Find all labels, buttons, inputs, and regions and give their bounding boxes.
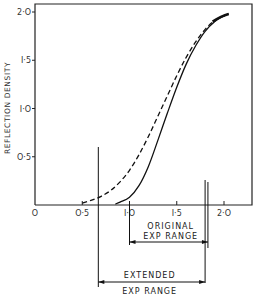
plot-border	[35, 4, 252, 205]
extended-label-1: EXTENDED	[124, 271, 176, 280]
original-label-1: ORIGINAL	[147, 222, 194, 231]
x-tick-label: O	[32, 209, 38, 218]
y-tick-label: I·O	[20, 105, 31, 114]
range-annotations: ORIGINALEXP RANGEEXTENDEDEXP RANGE	[98, 147, 208, 296]
arrow-head	[199, 280, 205, 284]
x-tick-label: 2·O	[217, 209, 231, 218]
chart: OO·5I·OI·52·OO·5I·OI·52·O ORIGINALEXP RA…	[0, 0, 257, 298]
y-tick-label: I·5	[21, 56, 31, 65]
original-label-2: EXP RANGE	[143, 232, 198, 241]
plot-frame	[35, 4, 252, 205]
x-tick-label: O·5	[75, 209, 89, 218]
curves	[82, 14, 228, 204]
y-tick-label: O·5	[17, 153, 31, 162]
extended-label-2: EXP RANGE	[122, 287, 177, 296]
solid-curve	[115, 14, 228, 204]
curve-merge	[213, 14, 229, 22]
dashed-curve	[82, 14, 228, 203]
y-tick-label: 2·O	[17, 8, 31, 17]
arrow-head	[130, 240, 136, 244]
x-tick-label: I·5	[172, 209, 182, 218]
y-axis-title: REFLECTION DENSITY	[3, 62, 12, 154]
arrow-head	[98, 280, 104, 284]
